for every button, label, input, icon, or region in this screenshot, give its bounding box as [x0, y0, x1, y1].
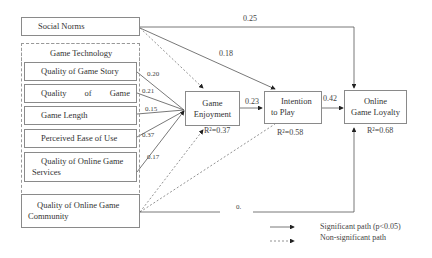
node-ease-of-use: Perceived Ease of Use — [24, 129, 137, 148]
node-intention-to-play: Intention to Play — [264, 91, 322, 124]
node-game-quality-label-3: Game — [110, 88, 130, 102]
node-community-label-1: Quality of Online Game — [28, 200, 133, 211]
path-label-intention-loyalty: 0.42 — [323, 94, 337, 103]
node-game-quality: Quality of Game — [24, 84, 137, 103]
node-social-norms: Social Norms — [21, 17, 140, 36]
path-label-social-loyalty: 0.25 — [243, 14, 257, 23]
r2-enjoyment: R²=0.37 — [204, 126, 230, 135]
group-title: Game Technology — [50, 48, 112, 58]
node-loyalty-label-2: Game Loyalty — [351, 107, 400, 118]
node-game-story-label: Quality of Game Story — [41, 66, 119, 76]
path-label-story-enjoy: 0.20 — [147, 70, 159, 78]
legend: Significant path (p<0.05) Non-significan… — [320, 221, 401, 243]
path-label-quality-enjoy: 0.21 — [142, 87, 154, 95]
node-game-length-label: Game Length — [41, 110, 88, 120]
node-online-services: Quality of Online Game Services — [24, 152, 137, 182]
path-label-length-enjoy: 0.15 — [145, 105, 157, 113]
path-label-social-intention: 0.18 — [219, 49, 233, 58]
path-label-ease-enjoy: 0.37 — [142, 131, 154, 139]
node-game-enjoyment-label-1: Game — [202, 98, 222, 109]
node-intention-label-2: to Play — [271, 107, 321, 118]
node-game-enjoyment-label-2: Enjoyment — [194, 109, 231, 120]
node-game-length: Game Length — [24, 106, 137, 125]
path-label-services-enjoy: 0.17 — [147, 153, 159, 161]
node-social-norms-label: Social Norms — [38, 21, 85, 31]
node-game-enjoyment: Game Enjoyment — [185, 91, 240, 126]
path-label-community-loyalty: 0. — [236, 203, 241, 211]
r2-intention: R²=0.58 — [277, 128, 303, 137]
node-game-quality-label-2: of — [85, 88, 92, 102]
node-online-services-label-1: Quality of Online Game — [32, 156, 130, 167]
node-loyalty-label-1: Online — [364, 96, 387, 107]
node-community: Quality of Online Game Community — [21, 194, 140, 228]
node-ease-of-use-label: Perceived Ease of Use — [41, 133, 117, 143]
path-label-enjoy-intention: 0.23 — [245, 97, 259, 106]
node-intention-label-1: Intention — [271, 96, 321, 107]
r2-loyalty: R²=0.68 — [367, 126, 393, 135]
legend-non-significant: Non-significant path — [320, 232, 401, 243]
legend-significant: Significant path (p<0.05) — [320, 221, 401, 232]
node-game-quality-label-1: Quality — [41, 88, 67, 102]
node-game-story: Quality of Game Story — [24, 62, 137, 81]
node-community-label-2: Community — [28, 211, 133, 222]
node-online-services-label-2: Services — [32, 167, 130, 178]
node-online-game-loyalty: Online Game Loyalty — [344, 90, 407, 124]
